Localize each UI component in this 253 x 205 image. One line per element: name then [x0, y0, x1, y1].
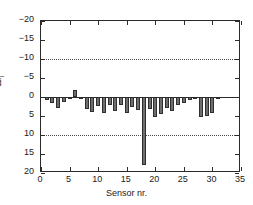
x-tick-mark: [184, 21, 185, 25]
x-tick-label: 10: [85, 175, 109, 184]
zero-line: [41, 97, 239, 98]
y-tick-label: 15: [2, 148, 34, 157]
y-tick-label: −10: [2, 53, 34, 62]
x-axis-label: Sensor nr.: [0, 188, 253, 198]
x-tick-mark: [70, 167, 71, 171]
y-tick-mark: [235, 97, 239, 98]
bar: [170, 97, 174, 111]
bar: [85, 97, 89, 109]
plot-inner: [41, 21, 239, 171]
x-tick-mark: [98, 167, 99, 171]
y-tick-label: 10: [2, 129, 34, 138]
x-tick-mark: [212, 167, 213, 171]
bar: [119, 97, 123, 105]
y-tick-label: 5: [2, 110, 34, 119]
bar: [108, 97, 112, 105]
y-tick-mark: [41, 59, 45, 60]
y-tick-mark: [235, 78, 239, 79]
x-tick-mark: [98, 21, 99, 25]
bar: [125, 97, 129, 113]
x-tick-mark: [41, 21, 42, 25]
bar: [136, 97, 140, 110]
bar: [148, 97, 152, 109]
x-tick-mark: [70, 21, 71, 25]
x-tick-mark: [241, 167, 242, 171]
y-tick-mark: [235, 59, 239, 60]
x-tick-mark: [41, 167, 42, 171]
figure-canvas: Δfi 20151050−5−10−15−20 05101520253035 S…: [0, 0, 253, 205]
bar: [159, 97, 163, 114]
x-tick-mark: [241, 21, 242, 25]
y-tick-mark: [235, 21, 239, 22]
bar: [205, 97, 209, 116]
plot-area: [40, 20, 240, 172]
y-tick-mark: [41, 154, 45, 155]
y-tick-mark: [41, 173, 45, 174]
y-tick-mark: [41, 135, 45, 136]
x-tick-mark: [155, 167, 156, 171]
y-tick-mark: [235, 40, 239, 41]
y-tick-label: 0: [2, 91, 34, 100]
bar: [73, 90, 77, 97]
x-tick-mark: [127, 167, 128, 171]
bar: [142, 97, 146, 165]
y-tick-label: −5: [2, 72, 34, 81]
bar: [56, 97, 60, 108]
x-tick-label: 30: [199, 175, 223, 184]
x-tick-label: 35: [228, 175, 252, 184]
gridline: [41, 59, 239, 60]
bar: [90, 97, 94, 112]
y-tick-mark: [235, 154, 239, 155]
x-tick-label: 20: [142, 175, 166, 184]
bar: [130, 97, 134, 107]
bar: [210, 97, 214, 113]
bar: [176, 97, 180, 105]
x-tick-label: 25: [171, 175, 195, 184]
y-tick-mark: [41, 116, 45, 117]
x-tick-mark: [184, 167, 185, 171]
y-tick-mark: [41, 97, 45, 98]
gridline: [41, 135, 239, 136]
bar: [113, 97, 117, 111]
y-tick-mark: [41, 40, 45, 41]
bar: [102, 97, 106, 113]
x-tick-label: 5: [57, 175, 81, 184]
y-tick-mark: [235, 135, 239, 136]
bar: [96, 97, 100, 106]
x-tick-mark: [127, 21, 128, 25]
bar: [199, 97, 203, 117]
x-tick-mark: [155, 21, 156, 25]
x-tick-mark: [212, 21, 213, 25]
bar: [153, 97, 157, 117]
x-tick-label: 0: [28, 175, 52, 184]
y-tick-label: −15: [2, 34, 34, 43]
x-tick-label: 15: [114, 175, 138, 184]
y-tick-mark: [235, 173, 239, 174]
bar: [165, 97, 169, 108]
y-tick-mark: [41, 78, 45, 79]
y-tick-label: −20: [2, 15, 34, 24]
y-tick-mark: [235, 116, 239, 117]
